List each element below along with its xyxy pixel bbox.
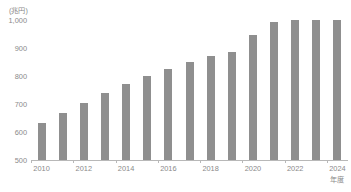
bar-chart: (兆円) 1,000900800700600500 20102012201420… — [0, 0, 351, 192]
y-axis-tick-label: 800 — [15, 73, 27, 80]
x-axis-tick-label: 2022 — [287, 165, 303, 172]
x-axis-tick-label: 2014 — [118, 165, 134, 172]
bar — [101, 93, 109, 160]
y-axis-tick-label: 1,000 — [9, 17, 28, 24]
bar — [312, 20, 320, 160]
bar-series — [31, 20, 348, 160]
y-axis-tick-label: 500 — [15, 157, 27, 164]
x-axis-tick-label: 2018 — [202, 165, 218, 172]
bar — [249, 35, 257, 160]
x-axis-tick-label: 2016 — [160, 165, 176, 172]
bar — [59, 113, 67, 160]
x-axis-tick-mark — [327, 160, 328, 163]
x-axis-tick-label: 2024 — [329, 165, 345, 172]
x-axis-tick-mark — [116, 160, 117, 163]
x-axis-tick-mark — [285, 160, 286, 163]
x-axis-tick-mark — [158, 160, 159, 163]
x-axis-tick-mark — [242, 160, 243, 163]
bar — [143, 76, 151, 160]
y-axis-tick-label: 900 — [15, 45, 27, 52]
bar — [228, 52, 236, 160]
bar — [164, 69, 172, 160]
x-axis-line — [31, 160, 348, 161]
y-axis-tick-labels: 1,000900800700600500 — [0, 0, 27, 192]
y-axis-tick-label: 700 — [15, 101, 27, 108]
bar — [333, 20, 341, 160]
x-axis-tick-label: 2020 — [245, 165, 261, 172]
bar — [80, 103, 88, 160]
x-axis-tick-mark — [73, 160, 74, 163]
x-axis-tick-mark — [31, 160, 32, 163]
bar — [38, 123, 46, 160]
bar — [270, 22, 278, 160]
x-axis-tick-label: 2010 — [33, 165, 49, 172]
bar — [186, 62, 194, 160]
x-axis-tick-mark — [200, 160, 201, 163]
bar — [122, 84, 130, 160]
x-axis-tick-label: 2012 — [76, 165, 92, 172]
y-axis-tick-label: 600 — [15, 129, 27, 136]
bar — [207, 56, 215, 160]
x-axis-caption: 年度 — [330, 176, 344, 183]
bar — [291, 20, 299, 160]
